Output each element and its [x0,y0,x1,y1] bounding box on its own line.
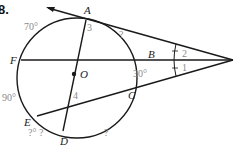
label-c: C [128,89,136,101]
label-b: B [148,48,155,60]
arc-fe-label: 90° [2,92,16,103]
arc-bc-label: 30° [133,68,147,79]
arc-ed-label: ?° ? [28,127,44,138]
arc-ab-label: ? [119,29,124,40]
tangent-line [48,8,233,60]
angle-1-label: 1 [182,62,187,73]
center-dot [72,72,76,76]
problem-number: 8. [0,2,9,17]
arrowhead-icon [46,7,55,12]
angle-2-label: 2 [182,48,187,59]
label-a: A [83,4,91,16]
label-d: D [59,135,68,147]
geometry-figure: 8. A B C D E F O 3 4 2 1 70° 90° 30° ? ?… [0,0,240,148]
angle-3-label: 3 [87,22,92,33]
label-f: F [9,54,17,66]
arc-af-label: 70° [24,21,38,32]
arc-dc-label: ? [104,127,109,138]
angle-4-label: 4 [73,90,78,101]
label-o: O [80,68,88,80]
